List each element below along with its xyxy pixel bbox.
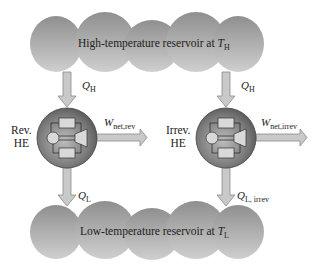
rev-heat-in-label: QH — [82, 80, 96, 94]
rev-he-label: Rev. HE — [11, 124, 32, 150]
high-reservoir-label: High-temperature reservoir at TH — [78, 38, 230, 52]
low-reservoir-label: Low-temperature reservoir at TL — [80, 226, 229, 240]
heat-out-arrow-rev — [58, 168, 76, 206]
heat-out-arrow-irrev — [217, 168, 235, 206]
irrev-heat-in-label: QH — [241, 80, 255, 94]
reversible-heat-engine — [37, 108, 97, 168]
heat-in-arrow-rev — [58, 72, 76, 107]
irrev-heat-out-label: QL, irrev — [237, 190, 269, 204]
rev-work-out-label: Wnet,rev — [104, 117, 135, 131]
irrev-work-out-label: Wnet,irrev — [261, 117, 297, 131]
irrev-he-label: Irrev. HE — [166, 124, 190, 150]
work-out-arrow-rev — [96, 129, 147, 146]
heat-in-arrow-irrev — [217, 72, 235, 107]
work-out-arrow-irrev — [256, 129, 307, 146]
irreversible-heat-engine — [196, 108, 256, 168]
rev-heat-out-label: QL — [78, 190, 91, 204]
